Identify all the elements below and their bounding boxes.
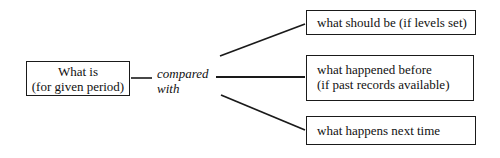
source-box-line-1: What is (27, 64, 129, 79)
source-box-line-2: (for given period) (27, 79, 129, 94)
target-box-what-happens-next: what happens next time (306, 116, 476, 145)
connector-label-line-1: compared (157, 66, 209, 81)
source-box-what-is: What is (for given period) (26, 61, 130, 96)
target-2-line-2: (if past records available) (317, 77, 473, 92)
connector-to-target-3 (221, 95, 305, 130)
target-box-what-should-be: what should be (if levels set) (306, 10, 476, 35)
target-2-line-1: what happened before (317, 62, 473, 77)
target-3-line-1: what happens next time (317, 123, 475, 138)
connector-to-target-1 (220, 24, 305, 56)
connector-label-line-2: with (157, 81, 209, 96)
connector-label-compared-with: compared with (157, 66, 209, 96)
target-box-what-happened-before: what happened before (if past records av… (306, 55, 474, 101)
target-1-line-1: what should be (if levels set) (317, 15, 475, 30)
